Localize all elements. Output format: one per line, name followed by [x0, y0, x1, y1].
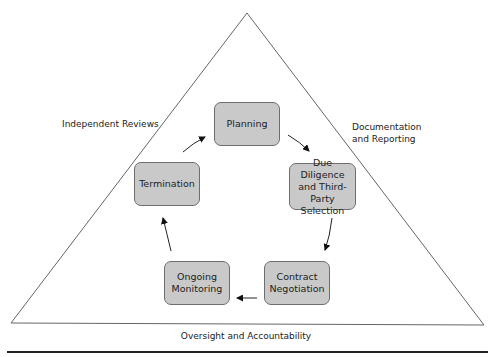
- stage-due-diligence-line3: Selection: [301, 205, 345, 217]
- stage-contract-line1: Contract: [277, 271, 318, 283]
- side-label-independent-reviews: Independent Reviews: [62, 118, 159, 130]
- side-label-documentation-line1: Documentation: [352, 121, 421, 133]
- stage-termination-label: Termination: [139, 178, 195, 190]
- stage-due-diligence: Due Diligence and Third-Party Selection: [289, 163, 356, 210]
- side-label-documentation-reporting: Documentation and Reporting: [352, 121, 421, 145]
- stage-planning-label: Planning: [227, 118, 268, 130]
- arrow-termination-to-planning: [183, 137, 205, 152]
- diagram-canvas: [0, 0, 492, 357]
- stage-monitoring-line1: Ongoing: [177, 271, 217, 283]
- stage-due-diligence-line1: Due Diligence: [292, 157, 353, 181]
- stage-ongoing-monitoring: Ongoing Monitoring: [164, 261, 230, 305]
- arrow-due-diligence-to-contract: [325, 218, 332, 250]
- stage-contract-negotiation: Contract Negotiation: [264, 261, 330, 305]
- arrow-monitoring-to-termination: [163, 218, 171, 251]
- stage-planning: Planning: [214, 102, 280, 146]
- stage-due-diligence-line2: and Third-Party: [292, 181, 353, 205]
- side-label-documentation-line2: and Reporting: [352, 133, 421, 145]
- arrow-planning-to-due-diligence: [288, 135, 309, 151]
- base-label-oversight: Oversight and Accountability: [0, 330, 492, 342]
- stage-termination: Termination: [134, 162, 200, 206]
- bottom-rule: [7, 351, 488, 353]
- triangle-outline: [11, 13, 484, 325]
- stage-contract-line2: Negotiation: [269, 283, 324, 295]
- stage-monitoring-line2: Monitoring: [172, 283, 223, 295]
